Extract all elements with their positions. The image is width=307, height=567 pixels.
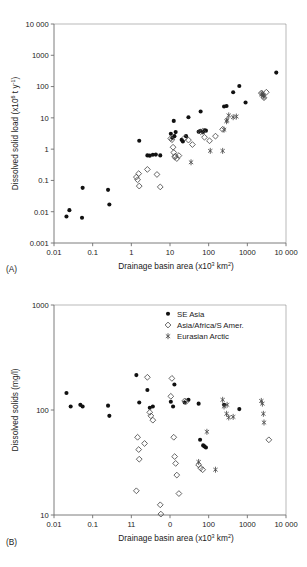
data-point-open-diamond	[174, 472, 180, 478]
data-point-open-diamond	[190, 142, 196, 148]
data-point-open-diamond	[158, 511, 164, 517]
data-point-filled-circle	[231, 90, 235, 94]
y-tick-label: 10	[40, 511, 48, 520]
data-point-asterisk	[227, 414, 231, 420]
legend-item-se-asia: SE Asia	[166, 310, 205, 319]
x-tick-label: 1000	[239, 520, 256, 529]
y-axis-title: Dissolved solids (mg/l)	[10, 368, 20, 451]
data-point-filled-circle	[237, 84, 241, 88]
legend-label: Eurasian Arctic	[177, 332, 229, 341]
x-tick-label: 0.01	[47, 520, 62, 529]
y-tick-label: 100	[36, 406, 49, 415]
data-point-filled-circle	[244, 100, 248, 104]
data-point-open-diamond	[135, 177, 141, 183]
panel-label: (B)	[6, 537, 17, 547]
data-point-filled-circle	[107, 202, 111, 206]
data-point-filled-circle	[158, 153, 162, 157]
data-point-asterisk	[166, 333, 170, 339]
data-point-open-diamond	[170, 144, 176, 150]
data-point-filled-circle	[237, 407, 241, 411]
data-point-asterisk	[205, 429, 209, 435]
data-point-open-diamond	[171, 434, 177, 440]
data-point-open-diamond	[135, 434, 141, 440]
y-axis-title: Dissolved solid load (x106 t y-1)	[10, 77, 20, 191]
data-point-open-diamond	[169, 375, 175, 381]
data-point-filled-circle	[172, 119, 176, 123]
data-point-open-diamond	[144, 374, 150, 380]
y-tick-label: 100	[36, 82, 49, 91]
x-axis-title: Drainage basin area (x103 km2)	[118, 533, 234, 543]
data-point-asterisk	[208, 148, 212, 154]
data-point-filled-circle	[172, 382, 176, 386]
data-point-open-diamond	[213, 133, 219, 139]
y-tick-label: 0.01	[34, 208, 49, 217]
x-tick-label: 1	[129, 248, 133, 257]
data-point-open-diamond	[142, 441, 148, 447]
data-point-filled-circle	[199, 109, 203, 113]
y-tick-label: 1	[45, 145, 49, 154]
legend-item-asia-africa-s-amer: Asia/Africa/S Amer.	[165, 321, 244, 330]
data-point-open-diamond	[154, 172, 160, 178]
data-point-open-diamond	[144, 167, 150, 173]
data-point-filled-circle	[81, 404, 85, 408]
series-se-asia	[64, 373, 241, 449]
data-point-filled-circle	[186, 115, 190, 119]
data-point-asterisk	[231, 414, 235, 420]
data-point-open-diamond	[136, 171, 142, 177]
data-point-open-diamond	[173, 461, 179, 467]
y-tick-label: 0.001	[30, 239, 49, 248]
x-axis-ticks: 0.010.1110100100010 000	[47, 515, 298, 529]
data-point-filled-circle	[166, 312, 170, 316]
x-tick-label: 11	[127, 520, 135, 529]
data-point-filled-circle	[107, 414, 111, 418]
x-tick-label: 0	[168, 520, 172, 529]
panel-a-dissolved-solid-load: 0.010.1110100100010 0000.0010.010.111010…	[0, 0, 307, 283]
data-point-open-diamond	[165, 322, 171, 328]
scatter-plot-b: 0.010.1110100100010 000101001000Drainage…	[0, 283, 307, 567]
data-point-filled-circle	[174, 130, 178, 134]
y-tick-label: 1000	[32, 51, 49, 60]
x-tick-label: 1000	[239, 248, 256, 257]
data-point-filled-circle	[106, 404, 110, 408]
x-axis-ticks: 0.010.1110100100010 000	[47, 243, 298, 257]
data-point-open-diamond	[133, 174, 139, 180]
legend-label: SE Asia	[177, 310, 205, 319]
data-point-open-diamond	[133, 488, 139, 494]
series-eurasian-arctic	[196, 397, 266, 473]
data-point-filled-circle	[80, 216, 84, 220]
data-point-filled-circle	[169, 400, 173, 404]
data-point-filled-circle	[151, 404, 155, 408]
panel-label: (A)	[6, 264, 17, 274]
data-point-asterisk	[261, 411, 265, 417]
data-point-asterisk	[262, 420, 266, 426]
y-tick-label: 10	[40, 114, 48, 123]
data-point-asterisk	[189, 159, 193, 165]
y-tick-label: 1000	[32, 301, 49, 310]
data-point-asterisk	[213, 467, 217, 473]
data-point-filled-circle	[198, 438, 202, 442]
axes	[54, 305, 286, 515]
data-point-filled-circle	[67, 208, 71, 212]
scatter-plot-a: 0.010.1110100100010 0000.0010.010.111010…	[0, 0, 307, 283]
data-point-filled-circle	[81, 186, 85, 190]
data-point-filled-circle	[134, 373, 138, 377]
x-tick-label: 100	[202, 520, 215, 529]
data-point-filled-circle	[145, 388, 149, 392]
y-axis-ticks: 101001000	[32, 301, 54, 520]
data-point-filled-circle	[137, 400, 141, 404]
data-point-open-diamond	[136, 183, 142, 189]
data-point-open-diamond	[157, 502, 163, 508]
data-point-filled-circle	[106, 188, 110, 192]
data-point-open-diamond	[207, 138, 213, 144]
x-tick-label: 0.1	[87, 248, 98, 257]
data-point-filled-circle	[171, 404, 175, 408]
x-tick-label: 0.01	[47, 248, 62, 257]
series-eurasian-arctic	[189, 91, 266, 166]
x-tick-label: 10 000	[274, 248, 297, 257]
data-point-filled-circle	[69, 404, 73, 408]
x-axis-title: Drainage basin area (x103 km2)	[118, 261, 234, 271]
data-point-filled-circle	[154, 153, 158, 157]
data-point-open-diamond	[266, 437, 272, 443]
data-point-open-diamond	[176, 491, 182, 497]
data-point-open-diamond	[136, 456, 142, 462]
